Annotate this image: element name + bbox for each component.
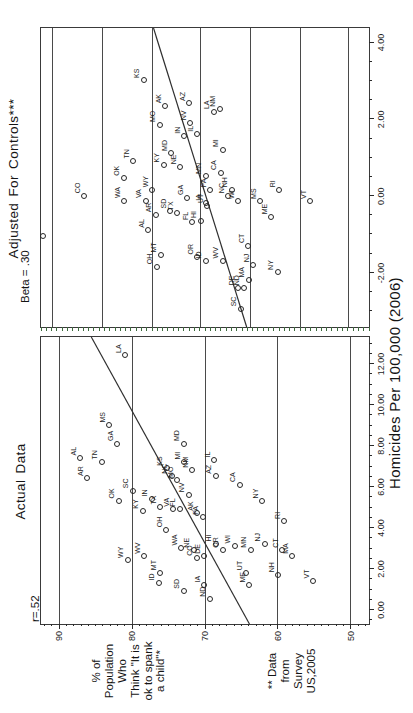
data-point-label: AR: [77, 466, 84, 476]
data-point-circle: [77, 455, 83, 461]
data-point-circle: [184, 195, 190, 201]
data-point-circle: [181, 441, 187, 447]
data-point-circle: [220, 147, 226, 153]
data-point-label: CT: [272, 538, 279, 547]
adjusted-y-axis-tick: [178, 327, 179, 331]
adjusted-y-axis-tick: [130, 327, 131, 331]
data-point-circle: [237, 482, 243, 488]
data-point-label: VA: [135, 189, 142, 198]
y-axis-minor-tick: [299, 624, 300, 627]
data-point-label: KY: [153, 153, 160, 162]
y-axis-minor-tick: [88, 624, 89, 627]
adjusted-y-axis-tick: [326, 327, 327, 331]
y-axis-minor-tick: [183, 624, 184, 627]
x-axis-tick-label: 8.00: [376, 437, 386, 455]
panel-title-actual-data: Actual Data: [13, 338, 28, 625]
data-point-label: NM: [209, 96, 216, 107]
y-axis-minor-tick: [59, 624, 60, 627]
data-point-label: CT: [238, 234, 245, 243]
data-point-label: AL: [138, 219, 145, 228]
x-axis-tick-label: 2.00: [376, 560, 386, 578]
x-axis-minor-tick: [369, 42, 372, 43]
adjusted-y-axis-tick: [115, 327, 116, 331]
data-point-circle: [157, 122, 163, 128]
data-point-circle: [213, 541, 219, 547]
x-axis-minor-tick: [369, 80, 372, 81]
data-point-label: HI: [190, 211, 197, 218]
x-axis-minor-tick: [369, 176, 372, 177]
data-point-label: UT: [236, 561, 243, 570]
data-point-label: GA: [177, 185, 184, 195]
adjusted-y-axis-tick: [167, 327, 168, 331]
x-axis-minor-tick: [369, 425, 372, 426]
data-point-label: KS: [133, 69, 140, 78]
data-point-label: WY: [142, 176, 149, 187]
data-point-label: AZ: [205, 465, 212, 474]
y-axis-minor-tick: [161, 624, 162, 627]
data-point-label: OH: [146, 254, 153, 265]
data-point-circle: [245, 243, 251, 249]
data-point-label: TX: [150, 496, 157, 505]
data-point-circle: [246, 277, 252, 283]
y-axis-minor-tick: [226, 624, 227, 627]
data-point-circle: [154, 264, 160, 270]
x-axis-minor-tick: [369, 384, 372, 385]
x-axis-minor-tick: [369, 619, 372, 620]
adjusted-y-axis-tick: [279, 327, 280, 331]
y-axis-minor-tick: [307, 624, 308, 627]
data-point-circle: [156, 580, 162, 586]
data-point-label: MD: [173, 430, 180, 441]
data-point-label: SD: [173, 579, 180, 589]
adjusted-y-axis-tick: [194, 327, 195, 331]
data-point-circle: [262, 541, 268, 547]
text-line: a child"*: [154, 629, 167, 713]
data-point-label: NM: [182, 457, 189, 468]
x-axis-minor-tick: [369, 253, 372, 254]
y-axis-minor-tick: [219, 624, 220, 627]
adjusted-y-axis-tick: [284, 327, 285, 331]
data-point-label: MA: [238, 267, 245, 278]
y-axis-minor-tick: [285, 624, 286, 627]
x-axis-minor-tick: [369, 548, 372, 549]
x-axis-minor-tick: [369, 138, 372, 139]
data-point-circle: [140, 508, 146, 514]
text-line: % of: [90, 629, 103, 713]
data-point-label: WA: [171, 535, 178, 546]
y-axis-minor-tick: [175, 624, 176, 627]
y-axis-minor-tick: [146, 624, 147, 627]
adjusted-y-axis-tick: [199, 327, 200, 331]
data-point-circle: [248, 547, 254, 553]
y-axis-minor-tick: [102, 624, 103, 627]
text-line: ok to spank: [142, 629, 155, 713]
data-point-circle: [158, 252, 164, 258]
data-point-circle: [114, 441, 120, 447]
adjusted-y-axis-tick: [358, 327, 359, 331]
x-axis-minor-tick: [369, 343, 372, 344]
adjusted-y-axis-tick: [363, 327, 364, 331]
text-line: ** Data: [266, 629, 279, 713]
data-point-label: NJ: [254, 533, 261, 542]
data-point-label: MA: [282, 543, 289, 554]
y-axis-minor-tick: [205, 624, 206, 627]
x-axis-minor-tick: [369, 118, 372, 119]
data-point-label: DE: [194, 544, 201, 554]
data-point-label: PA: [192, 506, 199, 515]
x-axis-minor-tick: [369, 589, 372, 590]
data-point-label: OH: [156, 517, 163, 528]
adjusted-y-axis-tick: [247, 327, 248, 331]
y-axis-minor-tick: [190, 624, 191, 627]
adjusted-y-axis-tick: [205, 327, 206, 331]
y-axis-tick-label: 70: [200, 631, 210, 651]
data-point-label: SD: [160, 199, 167, 209]
x-axis-minor-tick: [369, 99, 372, 100]
x-axis-tick-label: 4.00: [376, 34, 386, 52]
adjusted-y-axis-tick: [162, 327, 163, 331]
y-axis-minor-tick: [73, 624, 74, 627]
adjusted-y-axis-tick: [226, 327, 227, 331]
data-point-label: CO: [186, 545, 193, 556]
adjusted-y-axis-tick: [294, 327, 295, 331]
adjusted-y-axis-tick: [67, 327, 68, 331]
x-axis-minor-tick: [369, 486, 372, 487]
x-axis-minor-tick: [369, 507, 372, 508]
x-axis-minor-tick: [369, 404, 372, 405]
